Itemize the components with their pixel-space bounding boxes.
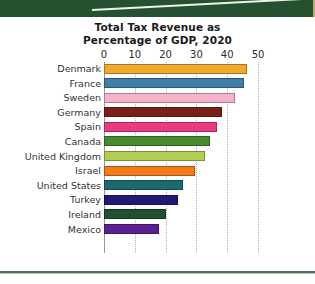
bar-row: Spain [0,120,315,135]
bar [104,151,205,161]
bar-row: Germany [0,106,315,121]
figure-page: Total Tax Revenue as Percentage of GDP, … [0,0,315,284]
bar [104,64,247,74]
bar-category-label: Ireland [68,209,101,220]
chart-title-line-2: Percentage of GDP, 2020 [0,34,315,47]
bar-row: United States [0,179,315,194]
bar-row: Mexico [0,223,315,238]
bar [104,195,178,205]
bar-category-label: Israel [75,165,101,176]
bar-category-label: France [69,78,101,89]
bar-category-label: Denmark [57,63,101,74]
chart-title: Total Tax Revenue as Percentage of GDP, … [0,19,315,46]
bar-series: DenmarkFranceSwedenGermanySpainCanadaUni… [0,62,315,253]
bar-category-label: Mexico [68,224,101,235]
bar-category-label: Germany [57,107,101,118]
bar [104,180,183,190]
bar [104,136,210,146]
bar-row: Israel [0,164,315,179]
bottom-rule-shadow [0,273,315,274]
bar-row: Denmark [0,62,315,77]
x-tick-label-40: 40 [221,49,234,60]
diagonal-accent-line [92,0,315,11]
top-decorative-band [0,0,315,17]
plot-area: DenmarkFranceSwedenGermanySpainCanadaUni… [0,62,315,258]
bar-row: Sweden [0,91,315,106]
chart-title-line-1: Total Tax Revenue as [0,21,315,34]
x-axis-tick-labels: 01020304050 [0,49,315,62]
x-tick-label-50: 50 [252,49,265,60]
x-tick-label-10: 10 [128,49,141,60]
bar [104,209,166,219]
bar-category-label: Sweden [63,92,101,103]
x-tick-label-30: 30 [190,49,203,60]
bar-row: United Kingdom [0,150,315,165]
bar-row: Turkey [0,193,315,208]
bar [104,224,159,234]
bar [104,166,195,176]
bar-category-label: United Kingdom [25,151,101,162]
bar-category-label: Spain [74,121,101,132]
bar-row: Canada [0,135,315,150]
bar-row: Ireland [0,208,315,223]
x-tick-label-0: 0 [101,49,107,60]
plot-wrapper: 01020304050 DenmarkFranceSwedenGermanySp… [0,49,315,264]
bar-category-label: United States [37,180,101,191]
bar [104,107,222,117]
bar [104,122,217,132]
bar-category-label: Turkey [70,194,101,205]
bar [104,78,244,88]
bar-category-label: Canada [65,136,101,147]
x-tick-label-20: 20 [159,49,172,60]
bar-chart: Total Tax Revenue as Percentage of GDP, … [0,19,315,267]
band-right-edge-accent [313,0,315,17]
bar [104,93,235,103]
bar-row: France [0,77,315,92]
